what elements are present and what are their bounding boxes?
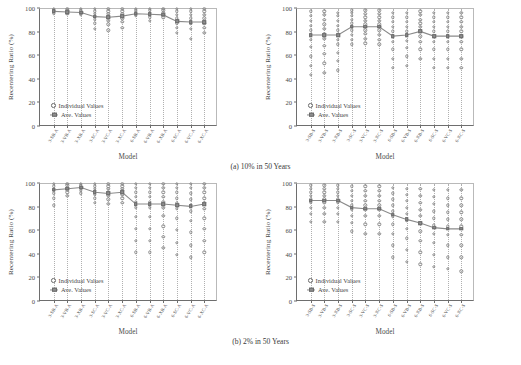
- square-marker-icon: [307, 112, 315, 117]
- y-tick-label: 0: [289, 298, 292, 305]
- average-value-marker: [446, 227, 450, 231]
- plot-area: Individual ValuesAve. Values: [296, 183, 474, 301]
- x-tick-label: 6-VB-S: [400, 128, 412, 143]
- y-axis-label: Recentering Ratio (%): [264, 8, 272, 126]
- y-tick-label: 60: [285, 227, 292, 234]
- x-tick-label: 3-VB-A: [60, 128, 73, 144]
- average-value-marker: [175, 203, 179, 207]
- y-tick-label: 80: [285, 203, 292, 210]
- legend-square: [309, 112, 314, 117]
- average-value-marker: [134, 202, 138, 206]
- average-value-marker: [161, 202, 165, 206]
- chart-legend: Individual ValuesAve. Values: [307, 101, 360, 119]
- y-tick-group: 020406080100: [20, 8, 37, 126]
- average-value-marker: [377, 25, 381, 29]
- legend-label-individual: Individual Values: [59, 277, 104, 284]
- average-value-marker: [336, 199, 340, 203]
- average-value-marker: [134, 12, 138, 16]
- y-tick-group: 020406080100: [277, 183, 294, 301]
- legend-item-average: Ave. Values: [50, 110, 103, 119]
- legend-item-average: Ave. Values: [307, 110, 360, 119]
- average-value-marker: [148, 202, 152, 206]
- x-axis-label: Model: [296, 328, 474, 336]
- y-tick-label: 80: [285, 28, 292, 35]
- legend-square: [52, 112, 57, 117]
- x-tick-label: 6-VB-A: [142, 303, 155, 319]
- chart-legend: Individual ValuesAve. Values: [50, 276, 103, 294]
- average-value-marker: [364, 207, 368, 211]
- y-tick-group: 020406080100: [277, 8, 294, 126]
- average-value-marker: [364, 25, 368, 29]
- x-tick-label: 3-VC-A: [101, 303, 114, 319]
- average-value-marker: [405, 33, 409, 37]
- x-tick-label: 3-SB-A: [47, 128, 59, 143]
- average-value-marker: [350, 206, 354, 210]
- x-tick-label: 6-VC-S: [441, 128, 453, 143]
- x-tick-label: 6-SC-A: [170, 303, 182, 318]
- x-tick-label: 3-VC-S: [359, 303, 371, 318]
- x-tick-label: 6-SC-S: [427, 128, 439, 143]
- x-tick-label: 3-VB-A: [60, 303, 73, 319]
- x-tick-label: 3-VC-S: [359, 128, 371, 143]
- y-tick-label: 40: [285, 250, 292, 257]
- y-tick-label: 100: [282, 180, 292, 187]
- x-tick-label: 3-XC-A: [115, 128, 128, 144]
- figure-root: Recentering Ratio (%)020406080100Individ…: [0, 0, 521, 365]
- chart-legend: Individual ValuesAve. Values: [50, 101, 103, 119]
- x-tick-label: 3-XC-A: [115, 303, 128, 319]
- x-tick-label: 6-VC-A: [183, 303, 196, 319]
- x-tick-label: 6-XB-A: [156, 128, 169, 144]
- square-marker-icon: [50, 112, 58, 117]
- x-tick-label: 3-VB-S: [317, 303, 329, 318]
- plot-area: Individual ValuesAve. Values: [39, 183, 217, 301]
- average-value-marker: [432, 34, 436, 38]
- circle-marker-icon: [51, 278, 56, 283]
- average-value-marker: [460, 227, 464, 231]
- y-tick-label: 20: [28, 274, 35, 281]
- x-tick-label-group: 3-SB-A3-VB-A3-XB-A3-SC-A3-VC-A3-XC-A6-SB…: [39, 127, 217, 153]
- average-value-marker: [405, 218, 409, 222]
- average-value-marker: [107, 192, 111, 196]
- average-value-marker: [52, 188, 56, 192]
- average-value-marker: [391, 34, 395, 38]
- y-tick-label: 80: [28, 203, 35, 210]
- x-tick-label: 6-SB-A: [129, 128, 141, 143]
- x-tick-label: 3-SB-S: [304, 303, 316, 318]
- average-value-marker: [418, 221, 422, 225]
- legend-item-average: Ave. Values: [50, 285, 103, 294]
- y-tick-group: 020406080100: [20, 183, 37, 301]
- x-tick-label: 3-SB-A: [47, 303, 59, 318]
- legend-item-individual: Individual Values: [50, 101, 103, 110]
- plot-area: Individual ValuesAve. Values: [296, 8, 474, 126]
- x-tick-label: 6-VC-A: [183, 128, 196, 144]
- x-tick-label: 3-SC-A: [88, 128, 100, 143]
- x-tick-label: 3-XB-S: [331, 303, 343, 318]
- square-marker-icon: [50, 287, 58, 292]
- y-tick-label: 0: [32, 298, 35, 305]
- legend-label-average: Ave. Values: [61, 286, 91, 293]
- average-value-marker: [120, 14, 124, 18]
- y-tick-label: 0: [32, 123, 35, 130]
- x-tick-label: 3-VB-S: [317, 128, 329, 143]
- average-value-marker: [309, 199, 313, 203]
- x-tick-label: 3-XB-A: [74, 128, 87, 144]
- average-value-marker: [391, 213, 395, 217]
- x-tick-label: 3-VC-A: [101, 128, 114, 144]
- x-tick-label: 6-VC-S: [441, 303, 453, 318]
- y-axis-label: Recentering Ratio (%): [7, 8, 15, 126]
- x-tick-label: 6-XB-S: [413, 303, 425, 318]
- legend-label-individual: Individual Values: [316, 102, 361, 109]
- x-tick-label-group: 3-SB-S3-VB-S3-XB-S3-SC-S3-VC-S3-XC-S6-SB…: [296, 302, 474, 328]
- average-value-marker: [446, 34, 450, 38]
- legend-label-average: Ave. Values: [318, 111, 348, 118]
- legend-item-average: Ave. Values: [307, 285, 360, 294]
- y-axis-label: Recentering Ratio (%): [7, 183, 15, 301]
- average-value-marker: [377, 207, 381, 211]
- legend-square: [309, 287, 314, 292]
- x-tick-label-group: 3-SB-S3-VB-S3-XB-S3-SC-S3-VC-S3-XC-S6-SB…: [296, 127, 474, 153]
- x-tick-label: 6-XC-S: [454, 303, 466, 318]
- x-tick-label: 6-XB-S: [413, 128, 425, 143]
- x-tick-label: 6-VB-A: [142, 128, 155, 144]
- x-tick-label: 3-XC-S: [372, 303, 384, 318]
- average-value-marker: [93, 15, 97, 19]
